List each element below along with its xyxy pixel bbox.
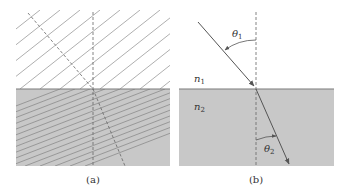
wavefronts-medium-1 [0,10,260,89]
medium-2-region [179,89,334,166]
refraction-figure: (a) θ1 n1 n2 θ2 (b) [0,0,342,192]
caption-a: (a) [86,174,100,185]
theta1-arc [225,40,256,50]
incident-ray [198,22,254,86]
theta1-label: θ1 [232,28,243,41]
n1-label: n1 [194,73,205,86]
panel-b: θ1 n1 n2 θ2 (b) [179,12,334,185]
caption-b: (b) [249,174,263,185]
